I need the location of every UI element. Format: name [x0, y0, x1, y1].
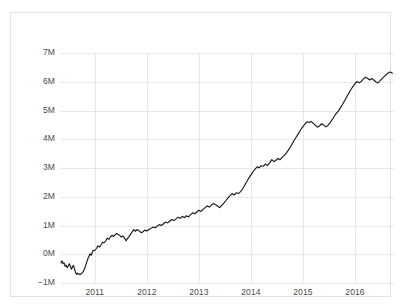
y-tick-label: −1M — [38, 277, 55, 287]
y-tick-label: 5M — [43, 105, 55, 115]
x-tick-label: 2016 — [345, 287, 364, 297]
x-tick-label: 2014 — [241, 287, 260, 297]
x-tick-label: 2012 — [137, 287, 156, 297]
gridline-y-minus1M — [61, 283, 394, 284]
series-path-cumulative — [61, 72, 392, 274]
chart-figure: 7M6M5M4M3M2M1M0M−1M 20112012201320142015… — [0, 0, 402, 308]
y-tick-label: 7M — [43, 47, 55, 57]
y-tick-label: 4M — [43, 133, 55, 143]
y-tick-label: 3M — [43, 162, 55, 172]
y-tick-label: 0M — [43, 248, 55, 258]
x-tick-label: 2011 — [85, 287, 104, 297]
series-line-chart — [61, 53, 394, 283]
y-tick-label: 1M — [43, 220, 55, 230]
plot-area: 7M6M5M4M3M2M1M0M−1M 20112012201320142015… — [61, 53, 394, 283]
y-tick-label: 6M — [43, 76, 55, 86]
x-tick-label: 2015 — [293, 287, 312, 297]
y-tick-label: 2M — [43, 191, 55, 201]
chart-frame: 7M6M5M4M3M2M1M0M−1M 20112012201320142015… — [10, 12, 391, 297]
x-tick-label: 2013 — [189, 287, 208, 297]
